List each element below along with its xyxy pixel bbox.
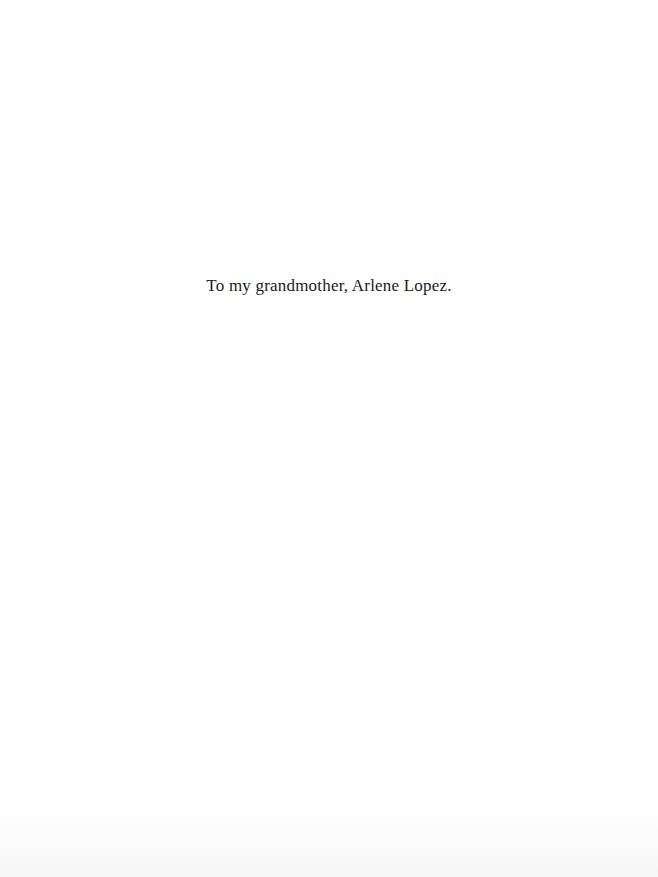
dedication-page: To my grandmother, Arlene Lopez.	[0, 0, 658, 877]
dedication-text: To my grandmother, Arlene Lopez.	[0, 276, 658, 296]
